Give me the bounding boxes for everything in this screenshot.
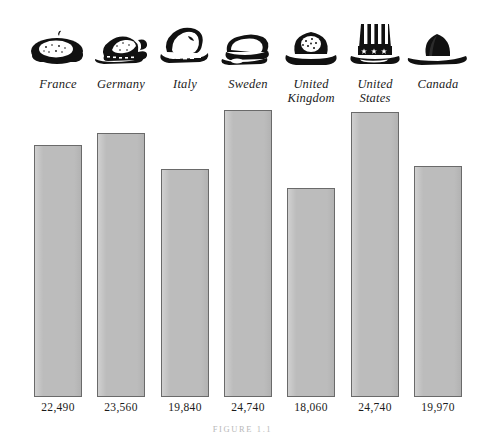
bowler-hat-icon bbox=[278, 6, 344, 68]
fedora-hat-icon bbox=[152, 6, 218, 68]
chart-column-germany: Germany 23,560 bbox=[88, 0, 154, 431]
bar-france bbox=[34, 145, 82, 397]
bar-united-states bbox=[351, 112, 399, 397]
chart-column-sweden: Sweden 24,740 bbox=[215, 0, 281, 431]
mountie-hat-icon bbox=[405, 6, 471, 68]
tyrolean-hat-icon bbox=[88, 6, 154, 68]
bar-germany bbox=[97, 133, 145, 397]
flat-cap-icon bbox=[215, 6, 281, 68]
country-label-canada: Canada bbox=[399, 78, 477, 92]
bar-canada bbox=[414, 166, 462, 397]
value-label-canada: 19,970 bbox=[398, 401, 478, 413]
chart-column-italy: Italy 19,840 bbox=[152, 0, 218, 431]
uncle-sam-top-hat-icon bbox=[342, 6, 408, 68]
chart-column-united-states: United States 24,740 bbox=[342, 0, 408, 431]
chart-column-canada: Canada 19,970 bbox=[405, 0, 471, 431]
figure-caption: FIGURE 1.1 bbox=[0, 424, 485, 434]
bar-italy bbox=[161, 169, 209, 397]
bar-sweden bbox=[224, 110, 272, 397]
bar-united-kingdom bbox=[287, 188, 335, 397]
beret-hat-icon bbox=[25, 6, 91, 68]
chart-column-united-kingdom: United Kingdom 18,060 bbox=[278, 0, 344, 431]
chart-column-france: France 22,490 bbox=[25, 0, 91, 431]
